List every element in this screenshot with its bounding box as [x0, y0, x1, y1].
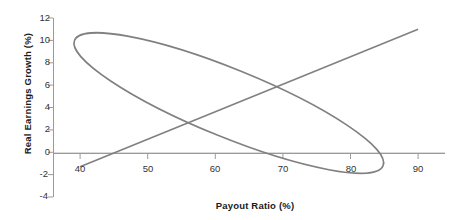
x-axis-title: Payout Ratio (%)	[155, 200, 355, 211]
x-tick-label-70: 70	[270, 163, 296, 174]
x-tick-label-80: 80	[338, 163, 364, 174]
y-tick-label-neg4: -4	[24, 190, 48, 201]
y-axis-title: Real Earnings Growth (%)	[22, 14, 33, 174]
x-tick-label-50: 50	[135, 163, 161, 174]
regression-trend-line	[80, 29, 418, 167]
chart-container: 12 10 8 6 4 2 0 -2 -4 40 50 60 70 80 90 …	[0, 0, 458, 220]
x-tick-label-90: 90	[405, 163, 431, 174]
chart-plot-area	[0, 0, 458, 220]
x-tick-label-60: 60	[202, 163, 228, 174]
x-tick-label-40: 40	[67, 163, 93, 174]
